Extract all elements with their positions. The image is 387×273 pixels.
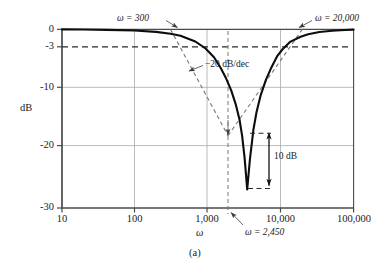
grid-horizontal [62, 87, 354, 145]
axis-frame [61, 29, 354, 209]
bode-plot-figure: 0 -3 -10 -20 -30 dB 10 100 1,000 10,000 … [0, 0, 387, 273]
response-curve [62, 29, 354, 189]
y-axis-title: dB [20, 103, 32, 114]
grid-vertical [135, 29, 281, 208]
y-tick-label-minus10: -10 [18, 82, 54, 93]
figure-caption: (a) [189, 248, 201, 259]
y-tick-label-minus30: -30 [18, 202, 54, 213]
x-axis-title: ω [196, 228, 203, 239]
omega-2450-label: ω = 2,450 [245, 228, 284, 238]
y-tick-label-minus20: -20 [18, 140, 54, 151]
x-tick-label-100000: 100,000 [326, 214, 382, 225]
omega-20000-label: ω = 20,000 [315, 14, 359, 24]
y-tick-label-0: 0 [22, 24, 54, 35]
depth-label: 10 dB [274, 152, 297, 162]
y-tick-label-minus3: -3 [22, 41, 54, 52]
x-tick-label-100: 100 [117, 214, 152, 225]
omega-300-label: ω = 300 [117, 14, 149, 24]
chart-canvas [0, 0, 387, 273]
slope-label: −20 dB/dec [205, 60, 249, 70]
x-tick-label-10: 10 [47, 214, 77, 225]
x-tick-label-10000: 10,000 [256, 214, 305, 225]
x-tick-label-1000: 1,000 [186, 214, 228, 225]
